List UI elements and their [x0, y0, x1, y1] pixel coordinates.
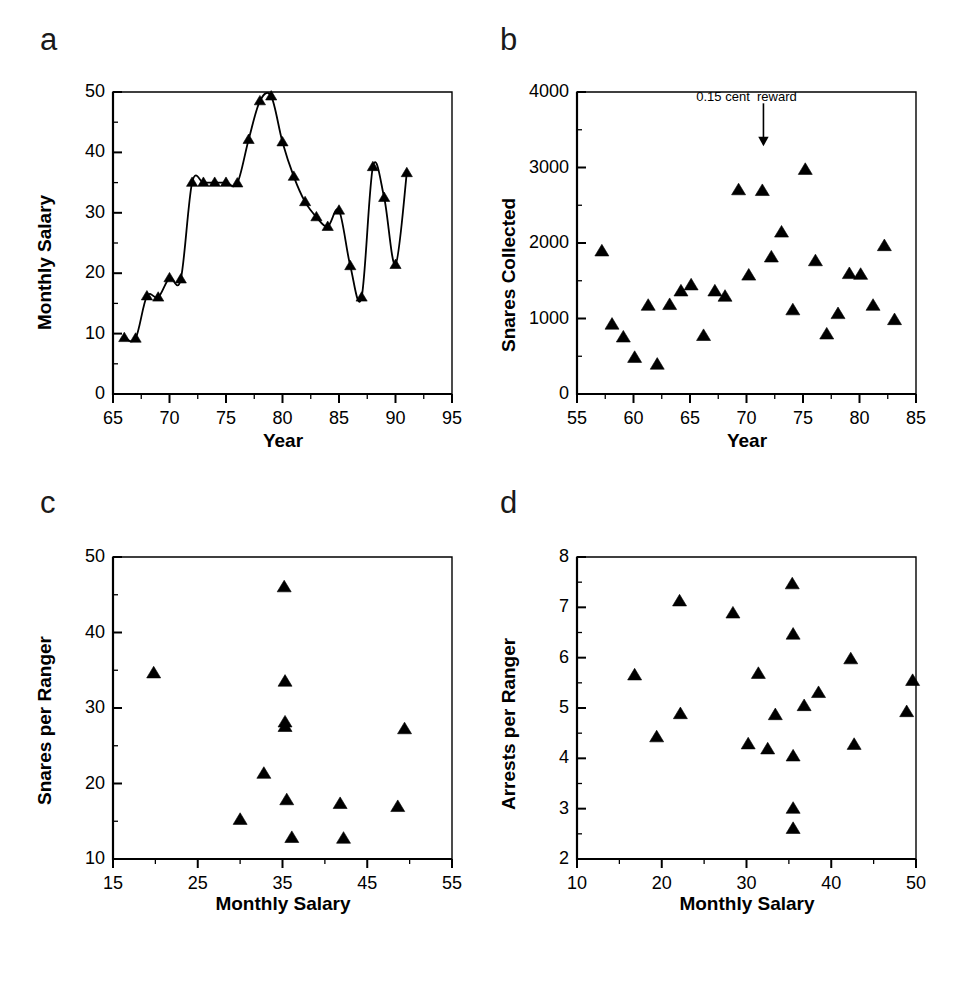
axis-frame-a [113, 92, 452, 394]
data-point-marker [232, 178, 243, 187]
data-point-marker [741, 737, 755, 749]
data-line-a [124, 93, 407, 342]
y-axis-ticks-a [113, 92, 122, 394]
data-point-marker [401, 167, 412, 176]
axis-frame-b [577, 92, 916, 394]
data-point-marker [650, 358, 664, 370]
data-markers-b [595, 163, 902, 369]
data-point-marker [854, 268, 868, 280]
x-tick-label-a: 95 [412, 408, 492, 429]
data-point-marker [628, 351, 642, 363]
data-point-marker [798, 163, 812, 175]
data-point-marker [697, 329, 711, 341]
data-point-marker [285, 831, 299, 843]
data-point-marker [761, 742, 775, 754]
data-point-marker [742, 269, 756, 281]
y-axis-title-a: Monthly Salary [34, 195, 56, 330]
data-point-marker [768, 708, 782, 720]
data-point-marker [708, 284, 722, 296]
data-point-marker [808, 254, 822, 266]
plot-area-b [0, 0, 980, 981]
data-point-marker [233, 813, 247, 825]
data-point-marker [130, 333, 141, 342]
annotation-arrow-b [758, 103, 768, 146]
data-point-marker [628, 668, 642, 680]
x-tick-label-c: 55 [412, 873, 492, 894]
data-point-marker [718, 290, 732, 302]
data-point-marker [866, 299, 880, 311]
data-point-marker [673, 707, 687, 719]
data-point-marker [900, 705, 914, 717]
data-point-marker [147, 666, 161, 678]
y-tick-label-a: 40 [35, 141, 105, 162]
data-point-marker [367, 161, 378, 170]
data-point-marker [198, 177, 209, 186]
y-tick-label-a: 50 [35, 81, 105, 102]
x-axis-ticks-d [577, 859, 916, 868]
data-point-marker [220, 177, 231, 186]
data-point-marker [278, 675, 292, 687]
data-point-marker [119, 332, 130, 341]
data-point-marker [842, 267, 856, 279]
y-tick-label-b: 3000 [499, 157, 569, 178]
axis-frame-c [113, 557, 452, 859]
panel-label-b: b [500, 24, 517, 55]
panel-label-c: c [40, 487, 56, 518]
data-point-marker [311, 211, 322, 220]
data-point-marker [775, 225, 789, 237]
data-point-marker [278, 720, 292, 732]
data-point-marker [732, 183, 746, 195]
data-point-marker [595, 244, 609, 256]
x-tick-label-d: 30 [707, 873, 787, 894]
figure-panel-grid: a0102030405065707580859095Monthly Salary… [0, 0, 980, 981]
data-point-marker [379, 192, 390, 201]
y-tick-label-d: 8 [499, 546, 569, 567]
data-point-marker [786, 628, 800, 640]
data-point-marker [280, 793, 294, 805]
data-point-marker [877, 239, 891, 251]
data-point-marker [888, 313, 902, 325]
x-axis-ticks-b [577, 394, 916, 403]
plot-area-d [0, 0, 980, 981]
x-axis-ticks-c [113, 859, 452, 868]
y-tick-label-d: 2 [499, 848, 569, 869]
y-tick-label-c: 10 [35, 848, 105, 869]
data-point-marker [391, 800, 405, 812]
data-point-marker [797, 699, 811, 711]
data-point-marker [209, 177, 220, 186]
data-point-marker [786, 802, 800, 814]
x-axis-ticks-a [113, 394, 452, 403]
data-point-marker [243, 134, 254, 143]
panel-label-a: a [40, 24, 57, 55]
data-point-marker [300, 196, 311, 205]
annotation-text-b: 0.15 cent reward [696, 89, 796, 104]
data-point-marker [288, 171, 299, 180]
data-point-marker [278, 715, 292, 727]
data-point-marker [726, 606, 740, 618]
data-point-marker [786, 822, 800, 834]
data-point-marker [650, 730, 664, 742]
x-tick-label-d: 40 [791, 873, 871, 894]
data-point-marker [906, 674, 920, 686]
data-point-marker [187, 177, 198, 186]
data-point-marker [616, 330, 630, 342]
data-point-marker [277, 136, 288, 145]
data-point-marker [755, 184, 769, 196]
x-tick-label-d: 50 [876, 873, 956, 894]
y-axis-ticks-b [577, 92, 586, 394]
data-point-marker [764, 250, 778, 262]
data-point-marker [266, 91, 277, 100]
x-tick-label-d: 20 [622, 873, 702, 894]
data-point-marker [673, 594, 687, 606]
data-point-marker [786, 749, 800, 761]
y-axis-title-c: Snares per Ranger [34, 636, 56, 805]
data-point-marker [663, 298, 677, 310]
data-point-marker [390, 259, 401, 268]
y-tick-label-a: 0 [35, 383, 105, 404]
data-point-marker [345, 260, 356, 269]
data-point-marker [175, 274, 186, 283]
data-point-marker [844, 652, 858, 664]
x-tick-label-c: 45 [327, 873, 407, 894]
data-point-marker [785, 577, 799, 589]
x-tick-label-c: 15 [73, 873, 153, 894]
